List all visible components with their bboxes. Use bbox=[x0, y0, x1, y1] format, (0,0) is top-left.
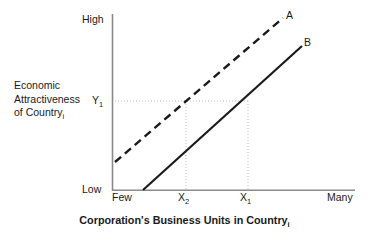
y-tick-label-y1: Y1 bbox=[92, 94, 103, 106]
x-tick-x1-text: X bbox=[240, 191, 247, 203]
chart-figure: Economic Attractiveness of Countryi High… bbox=[0, 0, 369, 237]
y-axis-title-line-1: Economic bbox=[14, 79, 80, 93]
y-axis-title-subscript: i bbox=[62, 112, 64, 121]
x-axis-title-subscript: i bbox=[288, 220, 290, 229]
y-axis-title-line-3: of Countryi bbox=[14, 106, 80, 120]
y-tick-label-low: Low bbox=[82, 183, 101, 195]
x-tick-x2-subscript: 2 bbox=[185, 197, 189, 206]
x-tick-label-few: Few bbox=[112, 191, 132, 203]
y-tick-y1-text: Y bbox=[92, 94, 99, 106]
x-axis-title-text: Corporation's Business Units in Country bbox=[79, 214, 287, 226]
x-tick-label-many: Many bbox=[327, 191, 353, 203]
series-a-label: A bbox=[286, 9, 293, 21]
series-b-label: B bbox=[304, 36, 311, 48]
y-tick-low-text: Low bbox=[82, 183, 101, 195]
y-tick-y1-subscript: 1 bbox=[99, 100, 103, 109]
x-tick-many-text: Many bbox=[327, 191, 353, 203]
x-tick-label-x2: X2 bbox=[178, 191, 189, 203]
x-tick-x2-text: X bbox=[178, 191, 185, 203]
y-tick-high-text: High bbox=[82, 13, 104, 25]
x-tick-label-x1: X1 bbox=[240, 191, 251, 203]
x-axis-title: Corporation's Business Units in Countryi bbox=[0, 214, 369, 226]
y-axis-title-line-2: Attractiveness bbox=[14, 93, 80, 107]
y-axis-title-line-3-text: of Country bbox=[14, 106, 62, 118]
y-axis-title: Economic Attractiveness of Countryi bbox=[14, 79, 80, 120]
y-tick-label-high: High bbox=[82, 13, 104, 25]
x-tick-few-text: Few bbox=[112, 191, 132, 203]
x-tick-x1-subscript: 1 bbox=[247, 197, 251, 206]
